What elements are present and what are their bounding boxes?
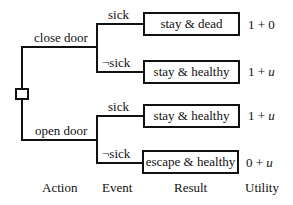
event-split-line	[96, 115, 98, 164]
action-line-close-door	[21, 46, 98, 48]
result-box: escape & healthy	[142, 150, 239, 174]
column-header-action: Action	[42, 180, 77, 196]
event-split-line	[96, 23, 98, 73]
utility-value: 0 + u	[246, 155, 273, 171]
event-line	[96, 23, 144, 25]
event-line	[96, 115, 144, 117]
action-label: open door	[35, 124, 87, 138]
event-label: ¬sick	[102, 56, 130, 70]
event-label: ¬sick	[102, 147, 130, 161]
decision-tree-diagram: close door sick stay & dead 1 + 0 ¬sick …	[0, 0, 293, 205]
utility-value: 1 + u	[248, 64, 275, 80]
result-box: stay & healthy	[143, 104, 240, 128]
action-label: close door	[34, 31, 88, 45]
column-header-event: Event	[102, 180, 132, 196]
decision-node	[15, 88, 29, 100]
column-header-result: Result	[174, 180, 207, 196]
action-line-open-door	[21, 139, 98, 141]
event-line	[96, 162, 143, 164]
event-label: sick	[108, 8, 129, 22]
result-box: stay & dead	[143, 12, 240, 36]
result-box: stay & healthy	[143, 60, 240, 84]
event-label: sick	[108, 100, 129, 114]
event-line	[96, 71, 144, 73]
utility-value: 1 + 0	[248, 17, 275, 33]
utility-value: 1 + u	[248, 108, 275, 124]
column-header-utility: Utility	[245, 180, 279, 196]
